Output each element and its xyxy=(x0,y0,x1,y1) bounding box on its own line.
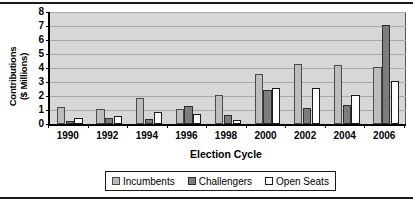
x-tick-mark-1 xyxy=(88,124,89,128)
x-tick-mark-6 xyxy=(285,124,286,128)
y-tick-label-0: 0 xyxy=(28,119,44,129)
x-tick-mark-9 xyxy=(404,124,405,128)
bar-2002-challengers xyxy=(303,108,311,124)
bar-group-1994 xyxy=(129,12,169,124)
y-axis-tick-labels: 012345678 xyxy=(28,12,44,124)
y-tick-label-7: 7 xyxy=(28,21,44,31)
bar-group-1990 xyxy=(50,12,90,124)
bar-2002-incumbents xyxy=(294,64,302,124)
y-tick-mark-1 xyxy=(46,110,50,111)
x-tick-label-1998: 1998 xyxy=(206,130,246,142)
bar-group-2002 xyxy=(287,12,327,124)
bar-1992-open-seats xyxy=(114,116,122,124)
page-rule-top xyxy=(0,2,413,4)
x-tick-mark-7 xyxy=(325,124,326,128)
bar-group-1996 xyxy=(169,12,209,124)
bar-1996-challengers xyxy=(184,106,192,124)
bar-2006-open-seats xyxy=(391,81,399,124)
x-tick-mark-5 xyxy=(246,124,247,128)
legend-item-open-seats: Open Seats xyxy=(265,176,329,187)
x-tick-label-2006: 2006 xyxy=(364,130,404,142)
plot-inner xyxy=(50,12,406,124)
bar-2000-open-seats xyxy=(272,88,280,124)
x-tick-label-1994: 1994 xyxy=(127,130,167,142)
y-axis-title-line-2: ($ Millions) xyxy=(18,17,29,137)
y-tick-mark-8 xyxy=(46,12,50,13)
y-tick-label-4: 4 xyxy=(28,63,44,73)
x-tick-mark-3 xyxy=(167,124,168,128)
legend-item-challengers: Challengers xyxy=(188,176,252,187)
y-tick-mark-7 xyxy=(46,26,50,27)
bar-2000-incumbents xyxy=(255,74,263,124)
y-axis-title-line-1: Contributions xyxy=(8,17,19,137)
bar-1992-incumbents xyxy=(96,109,104,124)
page-rule-bottom xyxy=(0,197,413,199)
legend-swatch-incumbents xyxy=(112,177,120,185)
bar-group-2006 xyxy=(366,12,406,124)
legend-label-incumbents: Incumbents xyxy=(123,176,175,187)
plot-area xyxy=(48,12,406,126)
y-tick-label-2: 2 xyxy=(28,91,44,101)
bar-1998-challengers xyxy=(224,115,232,124)
y-tick-label-1: 1 xyxy=(28,105,44,115)
bar-group-2000 xyxy=(248,12,288,124)
x-tick-label-1996: 1996 xyxy=(167,130,207,142)
x-tick-label-1990: 1990 xyxy=(48,130,88,142)
y-tick-label-8: 8 xyxy=(28,7,44,17)
bar-2004-open-seats xyxy=(351,95,359,124)
legend-item-incumbents: Incumbents xyxy=(112,176,175,187)
bar-group-1992 xyxy=(90,12,130,124)
bar-1996-open-seats xyxy=(193,114,201,125)
y-tick-label-3: 3 xyxy=(28,77,44,87)
bar-1994-incumbents xyxy=(136,98,144,124)
bar-2000-challengers xyxy=(263,90,271,124)
y-tick-label-5: 5 xyxy=(28,49,44,59)
y-axis-title: Contributions ($ Millions) xyxy=(8,17,29,137)
x-axis-title: Election Cycle xyxy=(48,148,404,160)
bar-2004-incumbents xyxy=(334,65,342,124)
x-tick-mark-0 xyxy=(48,124,49,128)
legend-swatch-challengers xyxy=(188,177,196,185)
bar-2004-challengers xyxy=(343,105,351,124)
y-tick-mark-3 xyxy=(46,82,50,83)
bar-1990-incumbents xyxy=(57,107,65,125)
x-tick-label-2004: 2004 xyxy=(325,130,365,142)
x-tick-label-2000: 2000 xyxy=(246,130,286,142)
y-tick-mark-6 xyxy=(46,40,50,41)
bar-group-1998 xyxy=(208,12,248,124)
y-tick-label-6: 6 xyxy=(28,35,44,45)
bar-1994-open-seats xyxy=(154,112,162,124)
x-axis-tick-labels: 199019921994199619982000200220042006 xyxy=(48,130,404,144)
bar-1998-incumbents xyxy=(215,95,223,124)
x-tick-label-1992: 1992 xyxy=(88,130,128,142)
legend-label-challengers: Challengers xyxy=(199,176,252,187)
bar-2006-incumbents xyxy=(373,67,381,124)
bar-1996-incumbents xyxy=(176,109,184,124)
chart-legend: Incumbents Challengers Open Seats xyxy=(105,171,336,191)
x-tick-mark-8 xyxy=(364,124,365,128)
x-tick-mark-2 xyxy=(127,124,128,128)
legend-swatch-open-seats xyxy=(265,177,273,185)
bar-chart: Contributions ($ Millions) 012345678 199… xyxy=(0,6,413,196)
y-tick-mark-4 xyxy=(46,68,50,69)
bar-group-2004 xyxy=(327,12,367,124)
legend-label-open-seats: Open Seats xyxy=(276,176,329,187)
x-tick-label-2002: 2002 xyxy=(285,130,325,142)
bar-2002-open-seats xyxy=(312,88,320,124)
x-tick-mark-4 xyxy=(206,124,207,128)
y-tick-mark-2 xyxy=(46,96,50,97)
y-tick-mark-5 xyxy=(46,54,50,55)
bar-2006-challengers xyxy=(382,25,390,124)
